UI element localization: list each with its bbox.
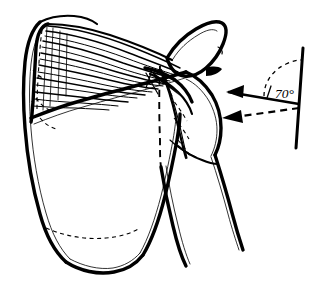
anatomy-figure: 70°: [0, 0, 329, 296]
figure-background: [0, 0, 329, 296]
shoulder-diagram-svg: 70°: [0, 0, 329, 296]
angle-label: 70°: [275, 86, 295, 101]
